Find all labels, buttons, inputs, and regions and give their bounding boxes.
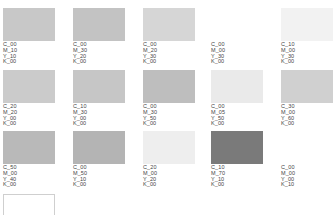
swatch-cell: C_50 M_00 Y_40 K_00 (3, 131, 55, 188)
cmyk-label: C_00 M_10 Y_10 K_00 (3, 42, 55, 65)
cmyk-label: C_10 M_30 Y_00 K_00 (73, 104, 125, 127)
color-swatch (143, 70, 195, 103)
color-swatch (211, 131, 263, 164)
black-value: K_00 (211, 59, 263, 65)
color-swatch (281, 70, 333, 103)
cmyk-label: C_00 M_30 Y_50 K_00 (143, 104, 195, 127)
cmyk-label: C_00 M_20 Y_30 K_00 (143, 42, 195, 65)
color-swatch (211, 70, 263, 103)
swatch-cell: C_00 M_20 Y_30 K_00 (143, 8, 195, 65)
swatch-cell: C_00 M_05 Y_50 K_00 (211, 70, 263, 127)
swatch-cell: C_00 M_30 Y_20 K_00 (73, 8, 125, 65)
color-swatch (3, 70, 55, 103)
black-value: K_00 (73, 59, 125, 65)
cmyk-label: C_20 M_00 Y_20 K_00 (143, 165, 195, 188)
color-swatch (143, 8, 195, 41)
color-swatch (73, 131, 125, 164)
cmyk-label: C_10 M_70 Y_10 K_00 (211, 165, 263, 188)
swatch-cell: C_20 M_20 Y_00 K_00 (3, 70, 55, 127)
swatch-cell: C_00 M_00 Y_30 K_00 (211, 8, 263, 65)
color-swatch (3, 8, 55, 41)
empty-swatch (3, 194, 55, 215)
black-value: K_00 (211, 121, 263, 127)
color-swatch (3, 131, 55, 164)
cmyk-label: C_00 M_00 Y_00 K_10 (281, 165, 333, 188)
cmyk-label: C_00 M_05 Y_50 K_00 (211, 104, 263, 127)
black-value: K_00 (281, 59, 333, 65)
color-swatch (73, 70, 125, 103)
swatch-cell: C_00 M_00 Y_00 K_10 (281, 131, 333, 188)
cmyk-label: C_30 M_00 Y_60 K_00 (281, 104, 333, 127)
black-value: K_00 (3, 59, 55, 65)
black-value: K_00 (143, 182, 195, 188)
swatch-cell: C_00 M_10 Y_10 K_00 (3, 8, 55, 65)
swatch-cell: C_00 M_30 Y_50 K_00 (143, 70, 195, 127)
color-swatch (211, 8, 263, 41)
cmyk-label: C_20 M_20 Y_00 K_00 (3, 104, 55, 127)
black-value: K_00 (281, 121, 333, 127)
black-value: K_00 (73, 182, 125, 188)
cmyk-label: C_50 M_00 Y_40 K_00 (3, 165, 55, 188)
cmyk-label: C_00 M_50 Y_10 K_00 (73, 165, 125, 188)
black-value: K_00 (3, 182, 55, 188)
swatch-cell: C_10 M_00 Y_30 K_00 (281, 8, 333, 65)
black-value: K_00 (143, 121, 195, 127)
cmyk-label: C_00 M_00 Y_30 K_00 (211, 42, 263, 65)
swatch-cell: C_30 M_00 Y_60 K_00 (281, 70, 333, 127)
black-value: K_00 (73, 121, 125, 127)
color-swatch (281, 8, 333, 41)
cmyk-label: C_00 M_30 Y_20 K_00 (73, 42, 125, 65)
swatch-cell: C_20 M_00 Y_20 K_00 (143, 131, 195, 188)
swatch-cell: C_10 M_30 Y_00 K_00 (73, 70, 125, 127)
color-swatch (281, 131, 333, 164)
cmyk-label: C_10 M_00 Y_30 K_00 (281, 42, 333, 65)
swatch-cell: C_10 M_70 Y_10 K_00 (211, 131, 263, 188)
black-value: K_00 (3, 121, 55, 127)
color-swatch (73, 8, 125, 41)
color-swatch (143, 131, 195, 164)
black-value: K_00 (211, 182, 263, 188)
black-value: K_00 (143, 59, 195, 65)
swatch-cell: C_00 M_50 Y_10 K_00 (73, 131, 125, 188)
black-value: K_10 (281, 182, 333, 188)
